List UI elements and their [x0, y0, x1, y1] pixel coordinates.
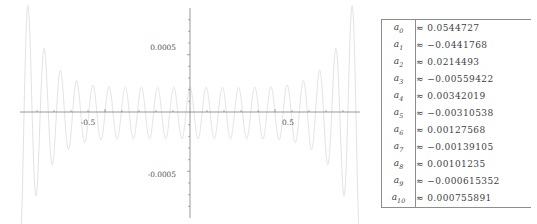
coefficient-value: ≈ −0.0441768 — [416, 37, 532, 54]
table-row: a4≈ 0.00342019 — [382, 88, 532, 105]
coefficient-value: ≈ −0.00139105 — [416, 139, 532, 156]
coefficient-value: ≈ 0.00101235 — [416, 156, 532, 173]
coefficient-table-body: a0≈ 0.0544727a1≈ −0.0441768a2≈ 0.0214493… — [382, 20, 532, 208]
coefficient-table: a0≈ 0.0544727a1≈ −0.0441768a2≈ 0.0214493… — [381, 19, 531, 208]
y-axis-ticks — [187, 20, 190, 207]
table-row: a6≈ 0.00127568 — [382, 122, 532, 139]
coefficient-index: a1 — [382, 37, 416, 54]
table-row: a3≈ −0.00559422 — [382, 71, 532, 88]
table-row: a0≈ 0.0544727 — [382, 20, 532, 38]
coefficient-value: ≈ 0.00342019 — [416, 88, 532, 105]
table-row: a8≈ 0.00101235 — [382, 156, 532, 173]
coefficient-value: ≈ 0.000755891 — [416, 190, 532, 208]
y-tick-label-positive: 0.0005 — [150, 43, 176, 52]
figure-and-table-panel: 0.0005 -0.0005 -0.5 0.5 a0≈ 0.0544727a1≈… — [0, 0, 537, 224]
coefficient-value: ≈ −0.000615352 — [416, 173, 532, 190]
table-row: a9≈ −0.000615352 — [382, 173, 532, 190]
coefficient-value: ≈ 0.0544727 — [416, 20, 532, 38]
x-tick-label-negative: -0.5 — [81, 118, 96, 127]
table-row: a7≈ −0.00139105 — [382, 139, 532, 156]
plot-axes-group — [20, 8, 360, 218]
y-tick-label-negative: -0.0005 — [148, 170, 177, 179]
coefficient-value: ≈ 0.00127568 — [416, 122, 532, 139]
plot-svg: 0.0005 -0.0005 -0.5 0.5 — [0, 0, 370, 224]
coefficient-index: a3 — [382, 71, 416, 88]
table-row: a5≈ −0.00310538 — [382, 105, 532, 122]
coefficient-index: a7 — [382, 139, 416, 156]
coefficient-index: a10 — [382, 190, 416, 208]
coefficient-index: a4 — [382, 88, 416, 105]
coefficient-value: ≈ 0.0214493 — [416, 54, 532, 71]
table-row: a1≈ −0.0441768 — [382, 37, 532, 54]
coefficient-index: a5 — [382, 105, 416, 122]
coefficient-value: ≈ −0.00559422 — [416, 71, 532, 88]
coefficient-table-container: a0≈ 0.0544727a1≈ −0.0441768a2≈ 0.0214493… — [381, 19, 529, 208]
coefficient-index: a6 — [382, 122, 416, 139]
coefficient-index: a2 — [382, 54, 416, 71]
coefficient-index: a8 — [382, 156, 416, 173]
coefficient-index: a9 — [382, 173, 416, 190]
coefficient-value: ≈ −0.00310538 — [416, 105, 532, 122]
approximation-error-plot: 0.0005 -0.0005 -0.5 0.5 — [0, 0, 370, 224]
x-tick-label-positive: 0.5 — [282, 118, 294, 127]
table-row: a2≈ 0.0214493 — [382, 54, 532, 71]
coefficient-index: a0 — [382, 20, 416, 38]
table-row: a10≈ 0.000755891 — [382, 190, 532, 208]
